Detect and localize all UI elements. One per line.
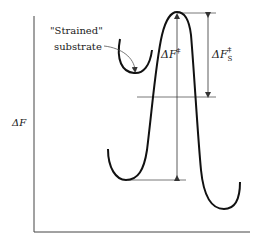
energy-level-lines bbox=[128, 13, 216, 180]
reaction-energy-curve bbox=[108, 12, 240, 209]
strained-barrier-label: ΔFS‡ bbox=[211, 45, 233, 63]
strained-label-line1: "Strained" bbox=[50, 25, 103, 36]
diagram-canvas: ΔF "Strained" substrate ΔF‡ ΔFS‡ bbox=[0, 0, 260, 245]
strained-label-line2: substrate bbox=[54, 41, 102, 52]
main-barrier-label: ΔF‡ bbox=[160, 46, 181, 61]
strained-substrate-curve bbox=[119, 39, 152, 73]
y-axis-label: ΔF bbox=[11, 117, 27, 128]
